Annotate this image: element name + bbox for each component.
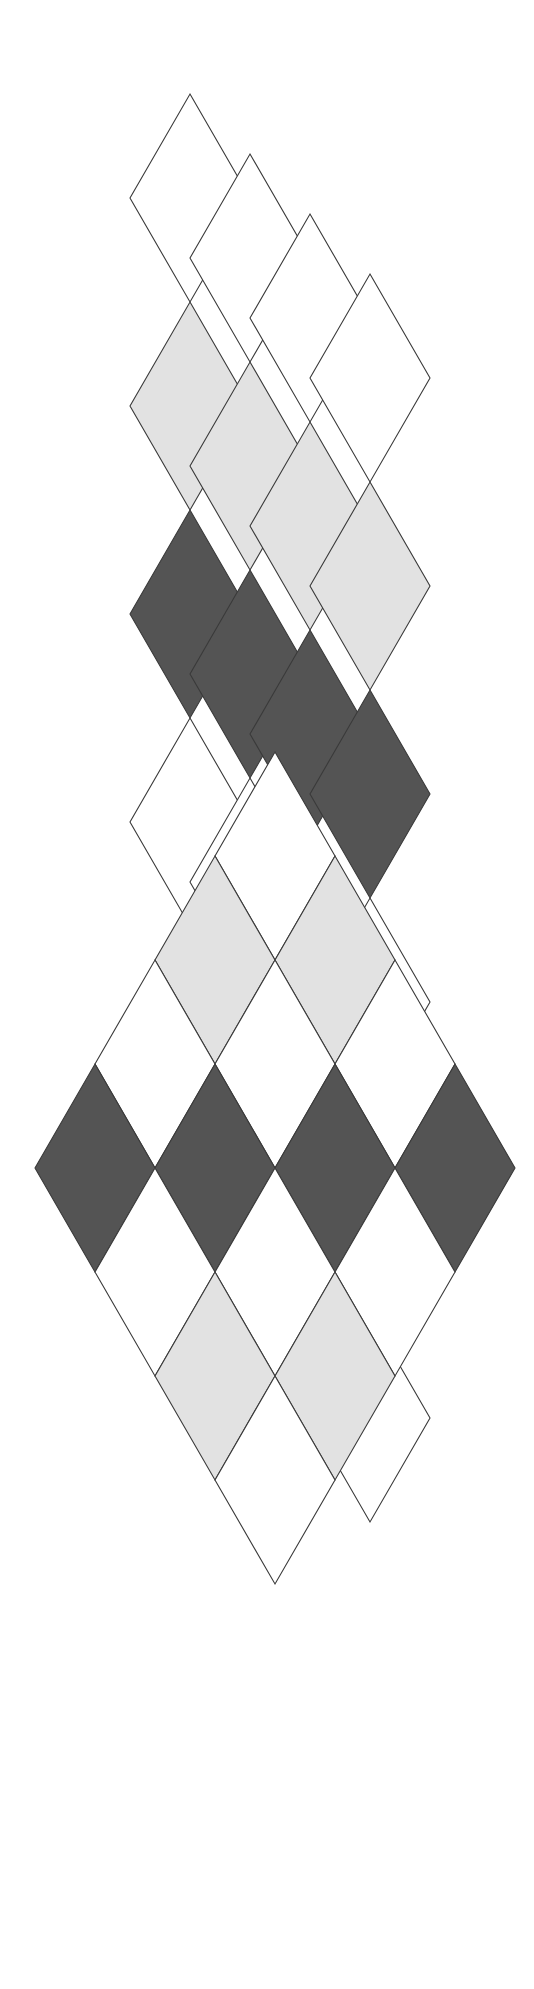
argyle-composition-svg bbox=[0, 0, 534, 1989]
lattice-row-5 bbox=[95, 1168, 455, 1376]
artwork-canvas bbox=[0, 0, 534, 1989]
lattice-row-3 bbox=[95, 960, 455, 1168]
